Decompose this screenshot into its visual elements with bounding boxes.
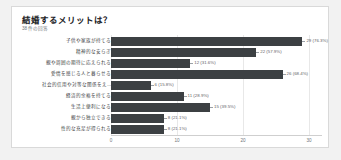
bar-row: 子供や家族が持てる29 (76.3%) — [12, 36, 330, 46]
bar-category-label: 子供や家族が持てる — [66, 37, 111, 43]
bar-row: 親や周囲の期待に応えられる12 (31.6%) — [12, 58, 330, 68]
bar-value-label: 11 (28.9%) — [188, 93, 209, 98]
x-axis-tick-label: 10 — [174, 138, 179, 143]
bar-value-connector — [164, 118, 167, 119]
bar-value-connector — [184, 96, 187, 97]
x-axis-tick-label: 20 — [240, 138, 245, 143]
bar-category-label: 経済的余裕を持てる — [66, 92, 111, 98]
bar — [111, 114, 164, 123]
bar — [111, 48, 256, 57]
x-axis-tick-label: 30 — [306, 138, 311, 143]
bar-category-label: 親や周囲の期待に応えられる — [46, 59, 111, 65]
bar — [111, 81, 151, 90]
bar-value-label: 6 (15.8%) — [155, 82, 174, 87]
bar-value-label: 26 (68.4%) — [287, 71, 308, 76]
bar-value-label: 8 (21.1%) — [168, 115, 187, 120]
bar — [111, 70, 283, 79]
bar-category-label: 社会的信用や対等な関係をえ... — [42, 81, 111, 87]
bar — [111, 125, 164, 134]
bar-category-label: 性的な充足が得られる — [61, 125, 111, 131]
bar-category-label: 愛情を感じる人と暮らせる — [51, 70, 111, 76]
page-title: 結婚するメリットは？ — [22, 13, 112, 25]
bar-value-connector — [256, 52, 259, 53]
bar-row: 精神的な安らぎ22 (57.9%) — [12, 47, 330, 57]
bar-value-connector — [190, 63, 193, 64]
survey-result-card: 結婚するメリットは？ 38 件の回答 子供や家族が持てる29 (76.3%)精神… — [11, 6, 329, 148]
bar-value-label: 15 (39.5%) — [214, 104, 235, 109]
bar-row: 生活上便利になる15 (39.5%) — [12, 102, 330, 112]
bar-value-label: 12 (31.6%) — [194, 60, 215, 65]
bar-category-label: 親から独立できる — [71, 114, 111, 120]
bar-row: 性的な充足が得られる8 (21.1%) — [12, 124, 330, 134]
bar-value-connector — [210, 107, 213, 108]
bar-value-label: 22 (57.9%) — [260, 49, 281, 54]
bar-value-connector — [283, 74, 286, 75]
bar — [111, 92, 184, 101]
bar-chart: 子供や家族が持てる29 (76.3%)精神的な安らぎ22 (57.9%)親や周囲… — [12, 35, 330, 149]
bar — [111, 103, 210, 112]
bar-row: 経済的余裕を持てる11 (28.9%) — [12, 91, 330, 101]
bar-category-label: 生活上便利になる — [71, 103, 111, 109]
bar — [111, 59, 190, 68]
x-axis-line — [111, 135, 322, 136]
bar-value-label: 8 (21.1%) — [168, 126, 187, 131]
bar — [111, 37, 302, 46]
response-count-label: 38 件の回答 — [22, 25, 48, 31]
x-axis-tick-label: 0 — [110, 138, 113, 143]
bar-value-connector — [164, 129, 167, 130]
bar-category-label: 精神的な安らぎ — [76, 48, 111, 54]
bar-row: 社会的信用や対等な関係をえ...6 (15.8%) — [12, 80, 330, 90]
bar-value-connector — [302, 41, 305, 42]
bar-value-label: 29 (76.3%) — [306, 38, 327, 43]
bar-value-connector — [151, 85, 154, 86]
bar-row: 親から独立できる8 (21.1%) — [12, 113, 330, 123]
bar-row: 愛情を感じる人と暮らせる26 (68.4%) — [12, 69, 330, 79]
